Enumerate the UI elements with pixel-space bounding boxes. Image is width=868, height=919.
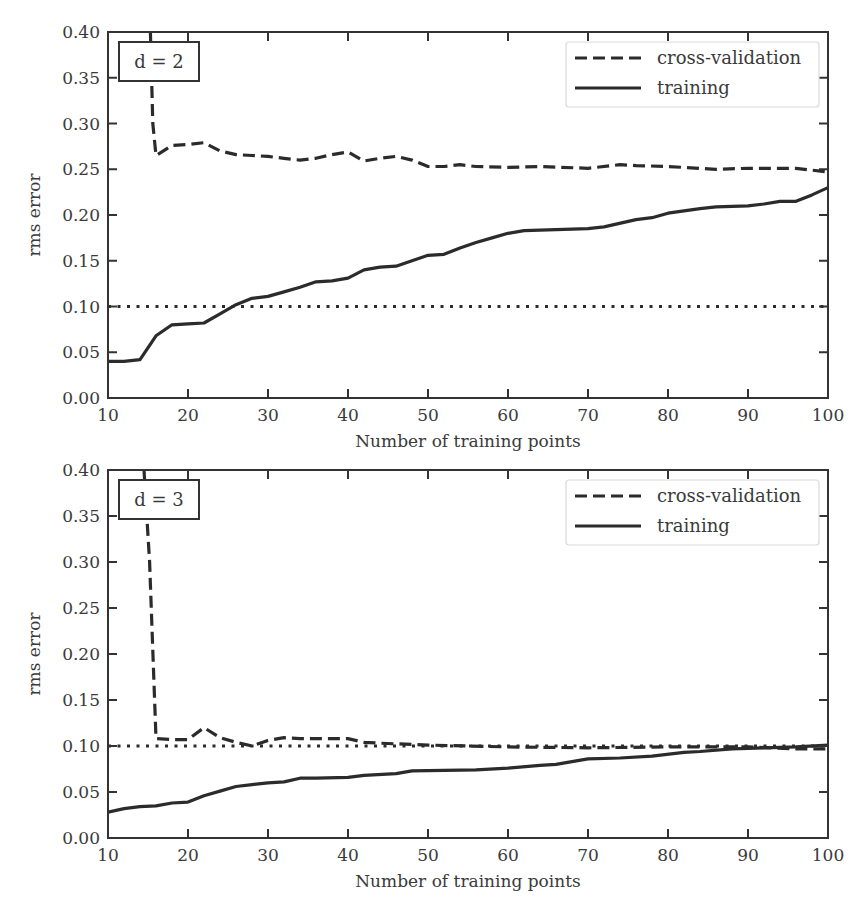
x-tick-label: 60 [497, 845, 519, 865]
training-line [108, 745, 828, 812]
panel-d2: 1020304050607080901000.000.050.100.150.2… [24, 22, 844, 451]
y-tick-label: 0.20 [62, 205, 100, 225]
legend-label-training: training [657, 515, 730, 536]
y-tick-label: 0.10 [62, 297, 100, 317]
x-tick-label: 30 [257, 845, 279, 865]
y-tick-label: 0.25 [62, 598, 100, 618]
legend-label-cross-validation: cross-validation [657, 485, 802, 506]
y-tick-label: 0.30 [62, 552, 100, 572]
y-tick-label: 0.05 [62, 342, 100, 362]
y-tick-label: 0.00 [62, 388, 100, 408]
y-tick-label: 0.00 [62, 828, 100, 848]
x-axis-label-d2: Number of training points [355, 431, 581, 451]
x-tick-label: 10 [97, 845, 119, 865]
x-tick-label: 30 [257, 405, 279, 425]
x-tick-label: 40 [337, 845, 359, 865]
y-tick-label: 0.40 [62, 22, 100, 42]
y-tick-label: 0.15 [62, 251, 100, 271]
y-axis-label-d2: rms error [24, 173, 44, 257]
figure-canvas: 1020304050607080901000.000.050.100.150.2… [0, 0, 868, 919]
y-tick-label: 0.05 [62, 782, 100, 802]
panel-label-d2: d = 2 [134, 51, 184, 72]
x-tick-label: 40 [337, 405, 359, 425]
x-tick-label: 50 [417, 845, 439, 865]
y-tick-label: 0.40 [62, 460, 100, 480]
y-tick-label: 0.30 [62, 114, 100, 134]
panel-d3: 1020304050607080901000.000.050.100.150.2… [24, 460, 844, 891]
x-tick-label: 100 [812, 845, 844, 865]
x-tick-label: 20 [177, 405, 199, 425]
training-line [108, 188, 828, 362]
y-axis-label-d3: rms error [24, 612, 44, 696]
x-tick-label: 90 [737, 405, 759, 425]
legend-d3: cross-validation training [566, 480, 819, 545]
x-tick-label: 50 [417, 405, 439, 425]
legend-d2: cross-validation training [566, 42, 819, 107]
x-tick-label: 70 [577, 405, 599, 425]
x-tick-label: 60 [497, 405, 519, 425]
y-tick-label: 0.35 [62, 68, 100, 88]
x-tick-label: 100 [812, 405, 844, 425]
y-tick-label: 0.10 [62, 736, 100, 756]
panel-label-d3: d = 3 [134, 489, 184, 510]
x-axis-label-d3: Number of training points [355, 871, 581, 891]
y-tick-label: 0.25 [62, 159, 100, 179]
legend-label-training: training [657, 77, 730, 98]
panel-label-box-d2: d = 2 [119, 42, 199, 81]
panel-label-box-d3: d = 3 [119, 480, 199, 519]
x-tick-label: 90 [737, 845, 759, 865]
x-tick-label: 70 [577, 845, 599, 865]
x-tick-label: 20 [177, 845, 199, 865]
y-tick-label: 0.15 [62, 690, 100, 710]
legend-label-cross-validation: cross-validation [657, 47, 802, 68]
x-tick-label: 10 [97, 405, 119, 425]
y-tick-label: 0.35 [62, 506, 100, 526]
x-tick-label: 80 [657, 845, 679, 865]
y-tick-label: 0.20 [62, 644, 100, 664]
x-tick-label: 80 [657, 405, 679, 425]
learning-curves-figure: 1020304050607080901000.000.050.100.150.2… [0, 0, 868, 919]
